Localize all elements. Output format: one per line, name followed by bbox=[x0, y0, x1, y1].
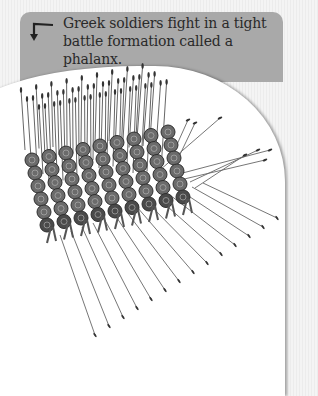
spear-tip bbox=[123, 77, 125, 83]
spear-tip bbox=[44, 103, 46, 109]
soldier-leg bbox=[87, 220, 90, 234]
shield bbox=[74, 211, 88, 225]
spear bbox=[192, 187, 263, 227]
shield bbox=[102, 178, 116, 192]
shield bbox=[37, 205, 51, 219]
shield bbox=[122, 188, 136, 202]
spear-tip bbox=[107, 323, 112, 328]
shield bbox=[161, 125, 175, 139]
spear-tip bbox=[77, 86, 79, 92]
shield bbox=[108, 204, 122, 218]
shield bbox=[156, 181, 170, 195]
shield bbox=[116, 162, 130, 176]
spear-tip bbox=[135, 305, 140, 310]
shield bbox=[88, 195, 102, 209]
spear-tip bbox=[38, 104, 40, 110]
spear-tip bbox=[111, 69, 113, 75]
shield bbox=[173, 177, 187, 191]
shield bbox=[71, 198, 85, 212]
spear-tip bbox=[205, 260, 210, 265]
spear bbox=[195, 155, 245, 188]
shield bbox=[68, 185, 82, 199]
spear-tip bbox=[132, 75, 134, 81]
spear-tip bbox=[74, 97, 76, 103]
spear-tip bbox=[150, 82, 152, 88]
spear-tip bbox=[68, 98, 70, 104]
spear-tip bbox=[89, 94, 91, 100]
shield bbox=[176, 190, 190, 204]
shield bbox=[54, 202, 68, 216]
spear-tip bbox=[149, 296, 154, 301]
shield bbox=[82, 169, 96, 183]
shield bbox=[159, 194, 173, 208]
spear-tip bbox=[135, 85, 137, 91]
spear-tip bbox=[47, 92, 49, 98]
shield bbox=[42, 150, 56, 164]
shield bbox=[28, 166, 42, 180]
spear-tip bbox=[177, 278, 182, 283]
spear-tip bbox=[35, 84, 37, 90]
spear-tip bbox=[56, 90, 58, 96]
spear-tip bbox=[50, 81, 52, 87]
spear-tip bbox=[71, 87, 73, 93]
soldier-leg bbox=[70, 224, 73, 238]
shield bbox=[125, 201, 139, 215]
spear-tip bbox=[120, 88, 122, 94]
spear-tip bbox=[185, 118, 190, 122]
spear-tip bbox=[41, 93, 43, 99]
spear-tip bbox=[93, 83, 95, 89]
shield bbox=[31, 179, 45, 193]
shield bbox=[150, 155, 164, 169]
shield bbox=[91, 208, 105, 222]
shield bbox=[139, 184, 153, 198]
shield bbox=[40, 218, 54, 232]
spear-tip bbox=[105, 91, 107, 97]
shield bbox=[62, 159, 76, 173]
spear-tip bbox=[32, 95, 34, 101]
shield bbox=[96, 152, 110, 166]
shield bbox=[51, 189, 65, 203]
spear-tip bbox=[96, 72, 98, 78]
spear-tip bbox=[219, 251, 224, 256]
spear-tip bbox=[26, 96, 28, 102]
spear-tip bbox=[165, 79, 167, 85]
shield bbox=[85, 182, 99, 196]
shield bbox=[167, 151, 181, 165]
shield bbox=[142, 197, 156, 211]
shield bbox=[119, 175, 133, 189]
spear-tip bbox=[108, 80, 110, 86]
spear-tip bbox=[121, 314, 126, 319]
shield bbox=[76, 143, 90, 157]
shield bbox=[79, 156, 93, 170]
phalanx-illustration bbox=[0, 0, 299, 343]
spear bbox=[21, 90, 25, 150]
spear-tip bbox=[144, 83, 146, 89]
shield bbox=[57, 215, 71, 229]
shield bbox=[65, 172, 79, 186]
spear-tip bbox=[62, 89, 64, 95]
spear-tip bbox=[83, 95, 85, 101]
shield bbox=[144, 129, 158, 143]
spear-tip bbox=[117, 78, 119, 84]
spear bbox=[57, 93, 59, 155]
shield bbox=[93, 139, 107, 153]
spear bbox=[54, 104, 57, 173]
spear-tip bbox=[138, 74, 140, 80]
spear-tip bbox=[59, 100, 61, 106]
spear-tip bbox=[147, 72, 149, 78]
spear-tip bbox=[247, 233, 252, 238]
spear-tip bbox=[99, 92, 101, 98]
spear bbox=[95, 75, 97, 143]
spear-tip bbox=[65, 78, 67, 84]
spear bbox=[81, 78, 82, 144]
shield bbox=[133, 158, 147, 172]
spear-tip bbox=[93, 332, 98, 337]
spear-tip bbox=[20, 87, 22, 93]
shield bbox=[99, 165, 113, 179]
spear bbox=[87, 87, 88, 152]
shield bbox=[110, 136, 124, 150]
shield bbox=[127, 132, 141, 146]
spear-tip bbox=[126, 66, 128, 72]
spear-tip bbox=[153, 71, 155, 77]
shield bbox=[130, 145, 144, 159]
